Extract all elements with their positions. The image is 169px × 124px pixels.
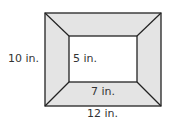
inner-height-label: 5 in. xyxy=(73,53,97,64)
inner-width-label: 7 in. xyxy=(91,86,115,97)
outer-width-label: 12 in. xyxy=(87,108,118,119)
outer-height-label: 10 in. xyxy=(8,53,39,64)
